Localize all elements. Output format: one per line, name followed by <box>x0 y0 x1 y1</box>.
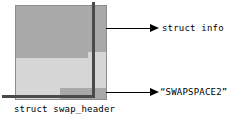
struct-info-label: struct info <box>162 23 224 34</box>
struct-info-arrow-icon <box>106 24 159 33</box>
block-right-edge <box>92 2 95 98</box>
swapspace-arrow-icon <box>106 88 159 97</box>
swapspace-label: “SWAPSPACE2” <box>160 87 227 98</box>
arrow-head <box>150 24 159 32</box>
arrow-shaft <box>106 28 151 29</box>
arrow-head <box>150 88 159 96</box>
arrow-shaft <box>106 92 151 93</box>
swap-header-diagram: struct info “SWAPSPACE2” struct swap_hea… <box>0 0 235 122</box>
diagram-caption: struct swap_header <box>14 104 115 115</box>
block-bottom-edge <box>2 95 95 98</box>
